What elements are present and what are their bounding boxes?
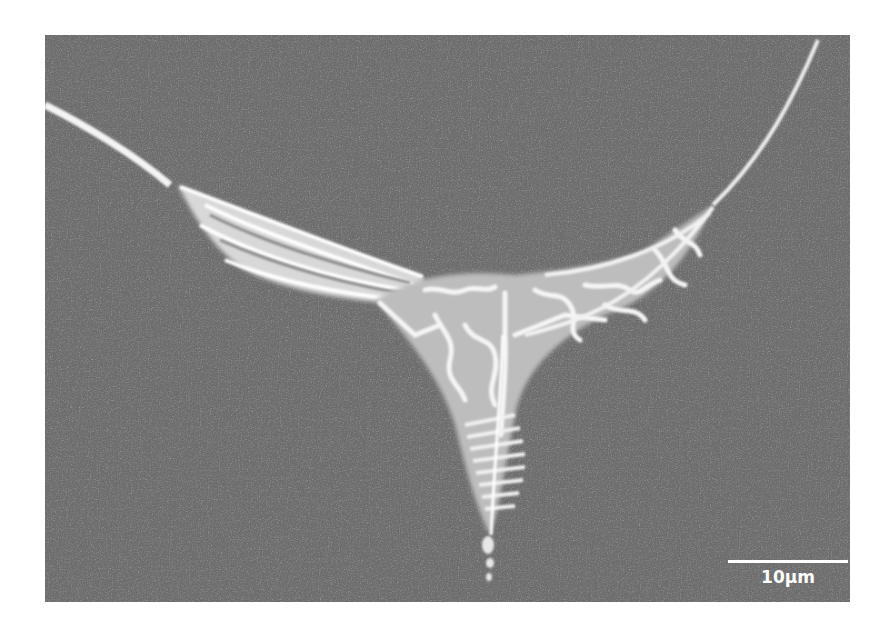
- scale-bar: 10µm: [728, 560, 848, 600]
- scale-bar-line: [728, 560, 848, 563]
- scale-bar-label: 10µm: [728, 567, 848, 587]
- sem-micrograph: 10µm: [45, 35, 850, 602]
- micrograph-canvas: [45, 35, 850, 602]
